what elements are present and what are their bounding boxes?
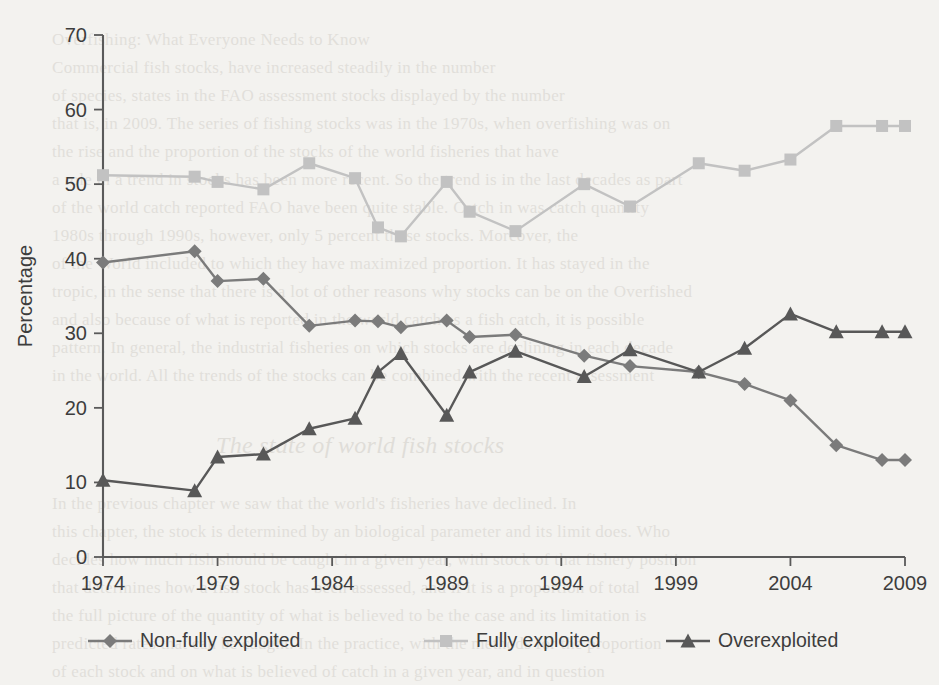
legend-item-label: Overexploited xyxy=(718,629,838,651)
y-axis-tick-label: 50 xyxy=(65,173,87,195)
chart-legend: Non-fully exploitedFully exploitedOverex… xyxy=(88,629,838,651)
x-axis-tick-label: 1994 xyxy=(539,572,584,594)
y-axis-title: Percentage xyxy=(14,245,36,347)
line-chart: 010203040506070 197419791984198919941999… xyxy=(0,0,939,685)
data-point-marker xyxy=(257,183,269,195)
data-series-group xyxy=(96,120,913,497)
x-axis-tick-label: 1989 xyxy=(424,572,469,594)
data-point-marker xyxy=(393,346,408,360)
data-point-marker xyxy=(577,349,591,363)
data-point-marker xyxy=(441,176,453,188)
data-point-marker xyxy=(899,120,911,132)
legend-item-overexploited[interactable]: Overexploited xyxy=(666,629,838,651)
y-axis-tick-label: 30 xyxy=(65,322,87,344)
x-axis-tick-group: 19741979198419891994199920042009 xyxy=(81,557,928,594)
data-point-marker xyxy=(739,165,751,177)
chart-container: 010203040506070 197419791984198919941999… xyxy=(0,0,939,685)
data-point-marker xyxy=(189,171,201,183)
legend-item-label: Fully exploited xyxy=(476,629,601,651)
y-axis-tick-label: 10 xyxy=(65,471,87,493)
legend-item-label: Non-fully exploited xyxy=(140,629,300,651)
data-point-marker xyxy=(508,344,523,358)
data-point-marker xyxy=(783,306,798,320)
series-fully-exploited xyxy=(97,120,911,242)
y-axis-tick-label: 40 xyxy=(65,248,87,270)
data-point-marker xyxy=(693,157,705,169)
y-axis-tick-label: 20 xyxy=(65,397,87,419)
y-axis-tick-label: 0 xyxy=(76,546,87,568)
data-point-marker xyxy=(578,178,590,190)
data-point-marker xyxy=(372,221,384,233)
data-point-marker xyxy=(623,359,637,373)
data-point-marker xyxy=(898,453,912,467)
data-point-marker xyxy=(371,314,385,328)
data-point-marker xyxy=(624,201,636,213)
data-point-marker xyxy=(394,320,408,334)
x-axis-tick-label: 1999 xyxy=(654,572,699,594)
data-point-marker xyxy=(97,169,109,181)
data-point-marker xyxy=(875,453,889,467)
legend-item-non-fully-exploited[interactable]: Non-fully exploited xyxy=(88,629,300,651)
x-axis-tick-label: 2009 xyxy=(883,572,928,594)
data-point-marker xyxy=(395,230,407,242)
data-point-marker xyxy=(738,377,752,391)
data-point-marker xyxy=(830,120,842,132)
data-point-marker xyxy=(509,225,521,237)
y-axis-tick-label: 70 xyxy=(65,24,87,46)
data-point-marker xyxy=(876,120,888,132)
y-axis-tick-label: 60 xyxy=(65,99,87,121)
legend-item-fully-exploited[interactable]: Fully exploited xyxy=(424,629,601,651)
data-point-marker xyxy=(508,328,522,342)
data-point-marker xyxy=(462,365,477,379)
x-axis-tick-label: 1984 xyxy=(310,572,355,594)
x-axis-tick-label: 1974 xyxy=(81,572,126,594)
data-point-marker xyxy=(577,369,592,383)
data-point-marker xyxy=(348,314,362,328)
data-point-marker xyxy=(348,411,363,425)
data-point-marker xyxy=(303,157,315,169)
legend-marker-square xyxy=(440,635,452,647)
data-point-marker xyxy=(96,255,110,269)
data-point-marker xyxy=(623,342,638,356)
data-point-marker xyxy=(212,176,224,188)
data-point-marker xyxy=(349,172,361,184)
data-point-marker xyxy=(464,206,476,218)
legend-marker-diamond xyxy=(103,634,117,648)
x-axis-tick-label: 1979 xyxy=(195,572,240,594)
data-point-marker xyxy=(784,154,796,166)
x-axis-tick-label: 2004 xyxy=(768,572,813,594)
